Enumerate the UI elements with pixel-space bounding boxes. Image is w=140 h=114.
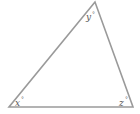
angle-y-degree: ° (92, 10, 95, 17)
angle-x-variable: x (15, 98, 20, 108)
angle-z-degree: ° (125, 95, 128, 102)
angle-z-variable: z (118, 98, 124, 108)
angle-label-y: y ° (85, 10, 95, 22)
angle-label-z: z ° (118, 95, 128, 108)
triangle (9, 2, 133, 107)
triangle-diagram: x ° y ° z ° (0, 0, 140, 114)
angle-y-variable: y (85, 12, 92, 22)
angle-x-degree: ° (21, 95, 24, 102)
